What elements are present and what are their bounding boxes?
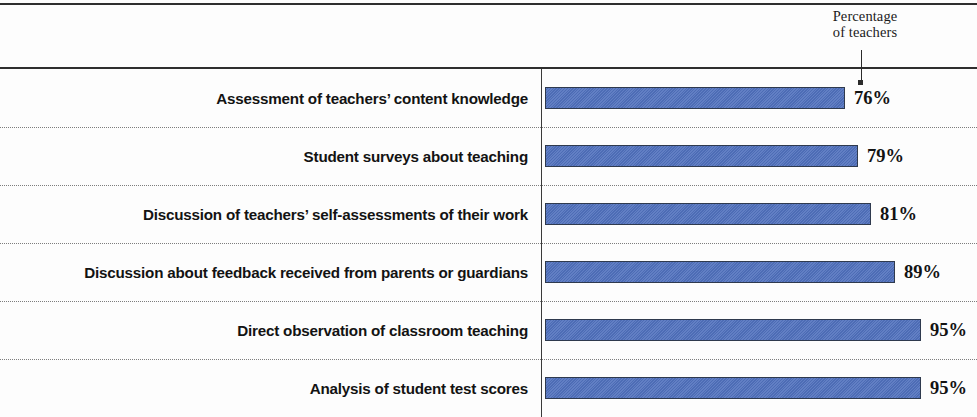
- bar: [545, 145, 858, 167]
- bar-row: Discussion of teachers’ self-assessments…: [0, 185, 977, 243]
- bar-row: Direct observation of classroom teaching…: [0, 301, 977, 359]
- bar-value-label: 95%: [930, 320, 967, 341]
- bar-value-label: 79%: [867, 146, 904, 167]
- bar-row: Assessment of teachers’ content knowledg…: [0, 69, 977, 127]
- row-separator: [0, 243, 977, 244]
- bar-row-label: Discussion about feedback received from …: [10, 264, 528, 281]
- bar-row: Student surveys about teaching79%: [0, 127, 977, 185]
- bar-value-label: 95%: [930, 378, 967, 399]
- bar: [545, 87, 845, 109]
- row-separator: [0, 185, 977, 186]
- bar: [545, 377, 921, 399]
- bar-row-label: Discussion of teachers’ self-assessments…: [10, 206, 528, 223]
- row-separator: [0, 301, 977, 302]
- bar-chart-figure: Percentage of teachers Assessment of tea…: [0, 0, 977, 417]
- plot-area: Assessment of teachers’ content knowledg…: [0, 69, 977, 417]
- bar-value-label: 89%: [904, 262, 941, 283]
- bar: [545, 261, 895, 283]
- bar: [545, 203, 871, 225]
- row-separator: [0, 127, 977, 128]
- bar-row-label: Analysis of student test scores: [10, 380, 528, 397]
- bar-row-label: Assessment of teachers’ content knowledg…: [10, 90, 528, 107]
- bar-value-label: 81%: [880, 204, 917, 225]
- bar: [545, 319, 921, 341]
- percentage-of-teachers-annotation: Percentage of teachers: [790, 8, 940, 40]
- annotation-line-1: Percentage: [790, 8, 940, 24]
- bar-row: Analysis of student test scores95%: [0, 359, 977, 417]
- bar-value-label: 76%: [854, 88, 891, 109]
- bar-row-label: Student surveys about teaching: [10, 148, 528, 165]
- row-separator: [0, 359, 977, 360]
- annotation-line-2: of teachers: [790, 24, 940, 40]
- bar-row-label: Direct observation of classroom teaching: [10, 322, 528, 339]
- top-rule: [0, 3, 977, 5]
- bar-row: Discussion about feedback received from …: [0, 243, 977, 301]
